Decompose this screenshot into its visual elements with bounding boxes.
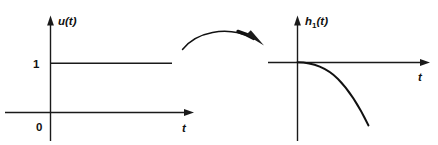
left-plot-xlabel: t bbox=[182, 122, 187, 134]
right-plot-ylabel: h1(t) bbox=[305, 15, 328, 30]
right-plot-y-axis bbox=[294, 16, 301, 142]
right-plot-ylabel-suffix: (t) bbox=[316, 15, 328, 27]
figure-canvas: u(t) 1 0 t bbox=[0, 0, 438, 145]
left-plot-origin-label: 0 bbox=[36, 121, 42, 133]
right-plot-xlabel: t bbox=[418, 71, 423, 83]
left-y-axis-arrowhead bbox=[47, 16, 54, 26]
mapping-arrow bbox=[183, 30, 265, 49]
right-y-axis-arrowhead bbox=[294, 16, 301, 26]
left-plot-ytick-1: 1 bbox=[33, 58, 40, 70]
right-plot-ylabel-base: h bbox=[305, 15, 312, 27]
left-plot-group: u(t) 1 0 t bbox=[5, 15, 194, 141]
mapping-arrowhead bbox=[246, 30, 264, 45]
left-plot-y-axis bbox=[47, 16, 54, 142]
left-plot-x-axis bbox=[5, 109, 194, 116]
right-x-axis-arrowhead bbox=[420, 59, 430, 66]
left-plot-ylabel: u(t) bbox=[58, 15, 77, 27]
left-x-axis-arrowhead bbox=[184, 109, 194, 116]
right-plot-x-axis bbox=[268, 59, 430, 66]
right-plot-decay-curve bbox=[298, 62, 369, 125]
right-plot-group: h1(t) t bbox=[268, 15, 430, 141]
diagram-svg: u(t) 1 0 t bbox=[0, 0, 438, 145]
